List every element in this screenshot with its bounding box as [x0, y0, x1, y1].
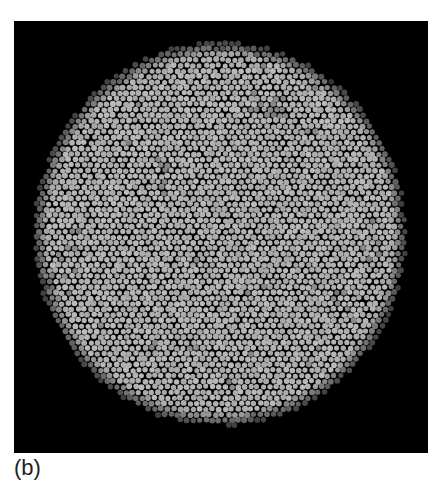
photoreceptor-mosaic-image — [14, 21, 428, 453]
panel-label: (b) — [14, 454, 41, 482]
micrograph-frame — [14, 21, 428, 453]
